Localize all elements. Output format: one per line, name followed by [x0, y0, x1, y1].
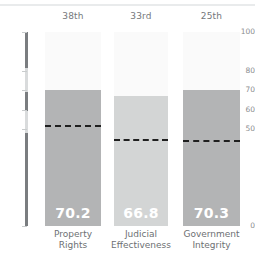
bar-group-judicial-effectiveness: 66.8 — [114, 32, 168, 226]
category-label-row: Property Rights Judicial Effectiveness G… — [0, 229, 255, 261]
y-tick-mark-0 — [22, 226, 27, 227]
bar-chart: 38th 33rd 25th 050607080100 70.2 66.8 70… — [0, 0, 255, 261]
category-label-line: Government — [167, 229, 256, 240]
average-line-government-integrity — [183, 140, 240, 142]
average-line-property-rights — [45, 125, 101, 127]
bar-value-property-rights: 70.2 — [45, 205, 101, 221]
top-divider-rule — [0, 4, 255, 6]
bar-group-property-rights: 70.2 — [45, 32, 101, 226]
bar-value-judicial-effectiveness: 66.8 — [114, 205, 168, 221]
plot-area: 70.2 66.8 70.3 — [0, 32, 255, 226]
average-line-judicial-effectiveness — [114, 139, 168, 141]
rank-label-row: 38th 33rd 25th — [0, 10, 255, 24]
bar-group-government-integrity: 70.3 — [183, 32, 240, 226]
rank-label-government-integrity: 25th — [167, 10, 256, 23]
bar-value-government-integrity: 70.3 — [183, 205, 240, 221]
category-label-government-integrity: Government Integrity — [167, 229, 256, 251]
category-label-line: Integrity — [167, 240, 256, 251]
